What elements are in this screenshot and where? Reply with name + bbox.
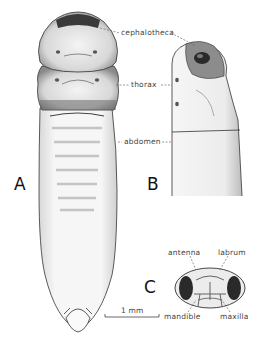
label-labrum: labrum	[218, 248, 246, 257]
label-cephalotheca: cephalotheca	[121, 28, 174, 37]
label-mandible: mandible	[164, 312, 201, 321]
figure-drawing	[0, 0, 261, 344]
panel-label-b: B	[147, 174, 159, 194]
label-antenna: antenna	[168, 248, 200, 257]
pupa-lateral-view	[172, 41, 242, 196]
scale-bar-label: 1 mm	[121, 306, 144, 315]
label-maxilla: maxilla	[220, 312, 249, 321]
panel-label-c: C	[144, 277, 156, 297]
head-frontal-view	[175, 268, 245, 308]
label-thorax: thorax	[131, 80, 157, 89]
label-abdomen: abdomen	[124, 137, 161, 146]
pupa-dorsal-view	[38, 12, 119, 332]
panel-label-a: A	[14, 174, 26, 194]
